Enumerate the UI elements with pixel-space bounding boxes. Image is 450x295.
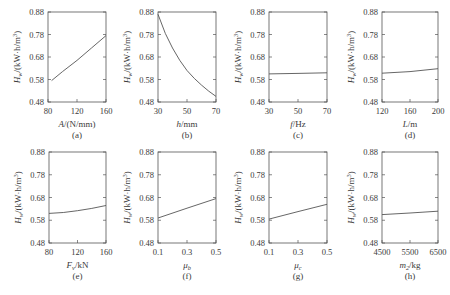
- x-tick-label: 70: [212, 106, 221, 116]
- y-tick-label: 0.58: [250, 215, 265, 225]
- subplot-f: 0.480.580.680.780.880.10.30.5μbHw/(kW·h/…: [121, 147, 221, 281]
- panel-label: (c): [293, 130, 303, 140]
- y-tick-label: 0.88: [30, 147, 45, 157]
- plot-frame: [49, 152, 106, 243]
- y-tick-label: 0.88: [250, 7, 265, 17]
- y-axis-label: Hw/(kW·h/m3): [11, 31, 23, 85]
- y-tick-label: 0.88: [139, 7, 154, 17]
- subplot-c: 0.480.580.680.780.88305070f/HzHw/(kW·h/m…: [232, 7, 331, 140]
- y-tick-label: 0.68: [363, 193, 378, 203]
- data-line: [382, 69, 438, 74]
- y-tick-label: 0.68: [363, 52, 378, 62]
- y-tick-label: 0.48: [139, 97, 154, 107]
- panel-label: (f): [183, 271, 192, 281]
- x-tick-label: 0.3: [293, 247, 304, 257]
- y-tick-label: 0.68: [250, 52, 265, 62]
- x-tick-label: 120: [376, 106, 389, 116]
- y-axis-label: Hw/(kW·h/m3): [345, 171, 357, 225]
- y-tick-label: 0.58: [363, 75, 378, 85]
- y-axis-label: Hw/(kW·h/m3): [345, 31, 357, 85]
- figure: 0.480.580.680.780.8880120160A/(N/mm)Hw/(…: [0, 0, 450, 295]
- data-line: [49, 206, 106, 214]
- x-axis-label: Fv/kN: [66, 260, 89, 271]
- plot-frame: [382, 152, 438, 243]
- y-tick-label: 0.48: [29, 97, 44, 107]
- y-tick-label: 0.58: [139, 75, 154, 85]
- y-tick-label: 0.58: [30, 215, 45, 225]
- subplot-e: 0.480.580.680.780.8880120160Fv/kNHw/(kW·…: [12, 147, 112, 281]
- y-axis-label: Hw/(kW·h/m3): [121, 171, 133, 225]
- x-tick-label: 0.5: [322, 247, 333, 257]
- y-tick-label: 0.78: [363, 170, 378, 180]
- plot-frame: [269, 12, 327, 102]
- y-tick-label: 0.58: [363, 215, 378, 225]
- x-axis-label: μc: [293, 260, 302, 271]
- x-tick-label: 0.1: [153, 247, 164, 257]
- y-tick-label: 0.88: [29, 7, 44, 17]
- x-tick-label: 160: [100, 106, 113, 116]
- data-line: [269, 73, 327, 74]
- x-tick-label: 30: [154, 106, 163, 116]
- panel-label: (e): [73, 271, 83, 281]
- x-tick-label: 50: [183, 106, 192, 116]
- y-tick-label: 0.58: [29, 75, 44, 85]
- y-tick-label: 0.88: [139, 147, 154, 157]
- x-tick-label: 50: [294, 106, 303, 116]
- panel-label: (h): [405, 271, 416, 281]
- y-tick-label: 0.58: [250, 75, 265, 85]
- plot-frame: [158, 152, 216, 243]
- y-tick-label: 0.78: [139, 30, 154, 40]
- x-tick-label: 160: [100, 247, 113, 257]
- x-tick-label: 4500: [374, 247, 391, 257]
- y-tick-label: 0.68: [139, 193, 154, 203]
- x-tick-label: 160: [404, 106, 417, 116]
- y-tick-label: 0.88: [363, 7, 378, 17]
- y-tick-label: 0.48: [30, 238, 45, 248]
- y-tick-label: 0.88: [363, 147, 378, 157]
- x-tick-label: 70: [323, 106, 332, 116]
- x-axis-label: f/Hz: [290, 119, 306, 129]
- y-tick-label: 0.48: [250, 97, 265, 107]
- panel-label: (b): [182, 130, 193, 140]
- y-tick-label: 0.78: [30, 170, 45, 180]
- data-line: [52, 36, 106, 81]
- panel-label: (a): [72, 130, 82, 140]
- x-tick-label: 30: [265, 106, 274, 116]
- plot-frame: [382, 12, 438, 102]
- y-tick-label: 0.68: [29, 52, 44, 62]
- panel-label: (g): [293, 271, 304, 281]
- x-tick-label: 0.5: [211, 247, 222, 257]
- x-axis-label: h/mm: [176, 119, 197, 129]
- x-tick-label: 6500: [430, 247, 447, 257]
- data-line: [382, 211, 438, 214]
- x-tick-label: 0.1: [264, 247, 275, 257]
- x-tick-label: 80: [45, 247, 54, 257]
- data-line: [269, 204, 327, 219]
- y-axis-label: Hw/(kW·h/m3): [232, 31, 244, 85]
- y-tick-label: 0.78: [139, 170, 154, 180]
- y-tick-label: 0.88: [250, 147, 265, 157]
- y-tick-label: 0.68: [250, 193, 265, 203]
- subplot-a: 0.480.580.680.780.8880120160A/(N/mm)Hw/(…: [11, 7, 112, 140]
- subplot-d: 0.480.580.680.780.88120160200L/mHw/(kW·h…: [345, 7, 444, 140]
- plot-frame: [48, 12, 106, 102]
- y-tick-label: 0.78: [250, 30, 265, 40]
- panel-label: (d): [405, 130, 416, 140]
- x-tick-label: 0.3: [182, 247, 193, 257]
- y-tick-label: 0.78: [250, 170, 265, 180]
- plot-frame: [158, 12, 216, 102]
- x-tick-label: 5500: [402, 247, 419, 257]
- x-tick-label: 80: [44, 106, 53, 116]
- plot-frame: [269, 152, 327, 243]
- y-tick-label: 0.68: [30, 193, 45, 203]
- x-axis-label: A/(N/mm): [58, 119, 96, 129]
- x-tick-label: 120: [71, 247, 84, 257]
- data-line: [158, 199, 216, 218]
- y-axis-label: Hw/(kW·h/m3): [232, 171, 244, 225]
- x-tick-label: 200: [432, 106, 445, 116]
- x-tick-label: 120: [71, 106, 84, 116]
- x-axis-label: m2/kg: [399, 260, 421, 271]
- y-tick-label: 0.58: [139, 215, 154, 225]
- y-axis-label: Hw/(kW·h/m3): [121, 31, 133, 85]
- y-axis-label: Hw/(kW·h/m3): [12, 171, 24, 225]
